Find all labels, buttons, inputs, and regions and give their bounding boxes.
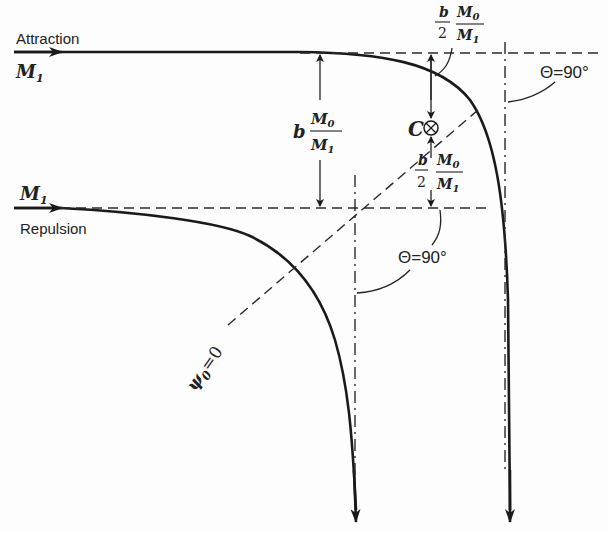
theta-mid-label: Θ=90° <box>398 248 447 267</box>
impact-b-label: b <box>293 121 306 142</box>
half-top-mnum: M0 <box>456 4 480 22</box>
half-bot-mden: M1 <box>436 176 459 194</box>
scattering-diagram: Attraction Repulsion M1 M1 b M0 M1 b 2 M… <box>0 0 607 533</box>
impact-num: M0 <box>310 110 335 129</box>
diagram-svg: Attraction Repulsion M1 M1 b M0 M1 b 2 M… <box>0 0 607 533</box>
theta-right-label: Θ=90° <box>540 63 589 82</box>
half-top-2: 2 <box>438 25 447 41</box>
repulsion-trajectory <box>14 208 356 510</box>
impact-den: M1 <box>310 136 335 155</box>
attraction-label: Attraction <box>16 30 79 47</box>
half-top-b: b <box>439 4 449 20</box>
theta-right-leader <box>508 82 555 102</box>
half-bot-2: 2 <box>417 174 426 190</box>
half-top-mden: M1 <box>456 27 479 45</box>
repulsion-label: Repulsion <box>20 220 87 237</box>
half-top-leader <box>435 48 452 76</box>
center-label: C <box>408 117 424 141</box>
particle-label-top: M1 <box>15 61 44 85</box>
theta-mid-leader <box>357 270 410 293</box>
repulsion-outgoing-arrow-icon <box>354 470 356 522</box>
particle-label-bottom: M1 <box>19 183 48 207</box>
svg-text:ψ0=0: ψ0=0 <box>182 342 229 396</box>
half-bot-b: b <box>418 152 428 168</box>
attraction-trajectory <box>14 52 510 510</box>
theta-mid-leader-top <box>432 210 441 245</box>
half-bot-mnum: M0 <box>436 152 460 170</box>
psi-label: ψ0=0 <box>182 342 229 396</box>
